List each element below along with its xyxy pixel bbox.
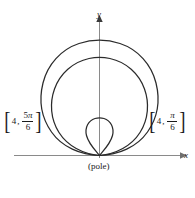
- right-angle-pi-symbol: π: [170, 110, 175, 120]
- left-angle-denominator: 6: [25, 122, 32, 132]
- point-label-left: [ 4 , 5π 6 ]: [3, 108, 43, 134]
- left-open-bracket: [: [4, 108, 10, 134]
- x-axis-label: x: [184, 150, 188, 160]
- left-close-bracket: ]: [36, 108, 42, 134]
- point-label-right: [ 4 , π 6 ]: [148, 108, 187, 134]
- left-angle-fraction: 5π 6: [22, 111, 33, 132]
- y-axis: [96, 15, 102, 158]
- y-axis-label: y: [97, 9, 101, 19]
- left-separator: ,: [17, 116, 19, 126]
- right-separator: ,: [162, 116, 164, 126]
- left-angle-numerator: 5π: [22, 111, 33, 121]
- polar-graph-figure: y x (pole) [ 4 , 5π 6 ] [ 4 , π 6 ]: [0, 0, 195, 198]
- right-close-bracket: ]: [180, 108, 186, 134]
- right-open-bracket: [: [149, 108, 155, 134]
- right-radius-value: 4: [157, 116, 162, 126]
- pole-label: (pole): [88, 161, 110, 171]
- right-angle-numerator: π: [169, 111, 176, 121]
- left-angle-pi-symbol: π: [28, 110, 33, 120]
- right-angle-denominator: 6: [169, 122, 176, 132]
- right-angle-fraction: π 6: [167, 111, 177, 132]
- left-radius-value: 4: [12, 116, 17, 126]
